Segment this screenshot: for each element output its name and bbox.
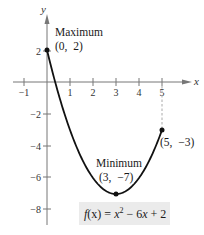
endpoint-point <box>160 128 165 133</box>
x-tick-labels: −1 1 2 3 4 5 <box>19 87 165 98</box>
x-tick-label: 3 <box>114 87 119 98</box>
x-tick-label: 2 <box>91 87 96 98</box>
x-axis-arrow-icon <box>182 80 192 85</box>
x-tick-label: 1 <box>68 87 73 98</box>
y-tick-label: −6 <box>30 172 41 183</box>
y-axis-arrow-icon <box>45 14 50 24</box>
x-axis-label: x <box>193 75 199 87</box>
minimum-label: Minimum <box>96 157 142 169</box>
function-graph: x y −1 1 2 3 4 5 2 −2 −4 −6 −8 <box>0 0 204 235</box>
x-tick-label: 4 <box>137 87 142 98</box>
y-axis-label: y <box>40 3 46 15</box>
endpoint-coord-label: (5, −3) <box>160 136 194 149</box>
y-tick-labels: 2 −2 −4 −6 −8 <box>30 46 41 215</box>
y-tick-label: −2 <box>30 109 41 120</box>
function-label: f(x) = x2 − 6x + 2 <box>84 206 166 221</box>
minimum-point <box>114 192 119 197</box>
y-tick-label: −4 <box>30 141 41 152</box>
maximum-point <box>45 48 50 53</box>
maximum-coord-label: (0, 2) <box>55 40 83 53</box>
maximum-label: Maximum <box>55 26 103 38</box>
y-tick-label: 2 <box>36 46 41 57</box>
minimum-coord-label: (3, −7) <box>99 171 133 184</box>
y-tick-label: −8 <box>30 204 41 215</box>
x-tick-label: −1 <box>19 87 30 98</box>
